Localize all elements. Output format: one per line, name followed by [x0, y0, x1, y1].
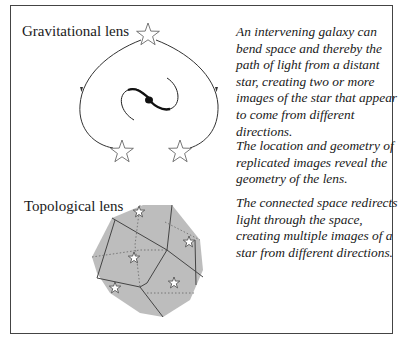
- diagram-graphics: [0, 0, 405, 348]
- light-path-right: [156, 40, 218, 148]
- star-icon-image-right: [169, 140, 192, 162]
- star-icon-image-left: [111, 140, 134, 162]
- light-path-left: [80, 40, 141, 148]
- polyhedron-icon: [92, 205, 203, 317]
- galaxy-spiral-icon: [121, 78, 178, 120]
- star-icon-source: [137, 23, 160, 45]
